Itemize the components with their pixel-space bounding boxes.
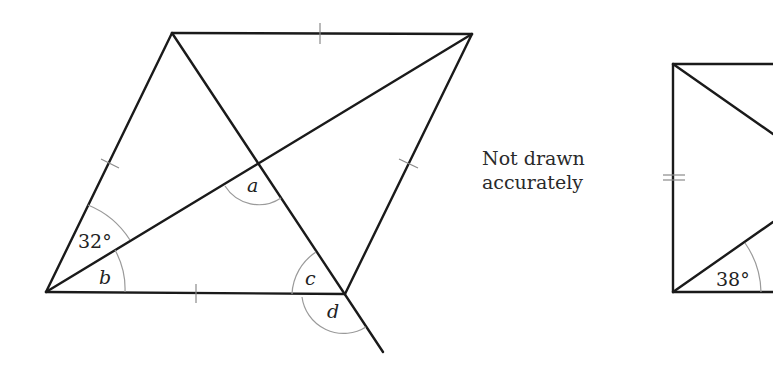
- diagram-canvas: 32° b a c d 38°: [0, 0, 773, 384]
- angle-label-38: 38°: [716, 268, 750, 290]
- angle-label-a: a: [247, 174, 258, 196]
- angle-label-c: c: [305, 267, 316, 289]
- note-line-2: accurately: [482, 170, 585, 194]
- right-figure-upper-diagonal: [673, 64, 773, 134]
- right-quadrilateral-figure: 38°: [663, 64, 773, 292]
- angle-arc-b: [115, 250, 125, 292]
- short-diagonal-extended: [172, 33, 383, 352]
- angle-label-32: 32°: [78, 230, 112, 252]
- rhombus-top-edge: [172, 33, 472, 34]
- note-line-1: Not drawn: [482, 146, 585, 170]
- angle-label-d: d: [327, 300, 339, 322]
- angle-label-b: b: [99, 266, 111, 288]
- not-drawn-accurately-note: Not drawn accurately: [482, 146, 585, 194]
- rhombus-figure: 32° b a c d: [46, 23, 472, 352]
